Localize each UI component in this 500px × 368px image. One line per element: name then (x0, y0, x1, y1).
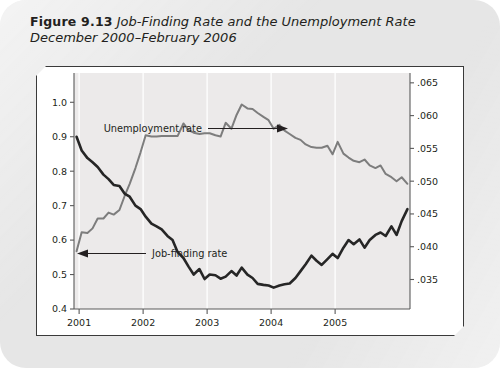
svg-text:.035: .035 (417, 274, 438, 285)
figure-title-line1: Job-Finding Rate and the Unemployment Ra… (117, 14, 416, 29)
svg-text:2005: 2005 (323, 317, 347, 328)
svg-text:.045: .045 (417, 208, 438, 219)
svg-text:0.5: 0.5 (52, 269, 67, 280)
svg-text:.040: .040 (417, 241, 438, 252)
svg-text:1.0: 1.0 (52, 97, 67, 108)
annotation-job-finding-rate: Job-finding rate (151, 248, 227, 259)
svg-text:0.6: 0.6 (52, 234, 67, 245)
figure-card: Figure 9.13 Job-Finding Rate and the Une… (0, 0, 500, 368)
svg-text:2004: 2004 (259, 317, 283, 328)
chart: 0.40.50.60.70.80.91.0.035.040.045.050.05… (36, 66, 464, 336)
svg-text:2001: 2001 (67, 317, 91, 328)
svg-text:0.4: 0.4 (52, 303, 67, 314)
svg-text:0.9: 0.9 (52, 131, 67, 142)
figure-caption: Figure 9.13 Job-Finding Rate and the Une… (30, 14, 470, 46)
svg-text:.065: .065 (417, 77, 438, 88)
svg-text:0.7: 0.7 (52, 200, 67, 211)
svg-text:2002: 2002 (131, 317, 155, 328)
svg-text:.055: .055 (417, 143, 438, 154)
figure-number: Figure 9.13 (30, 14, 113, 29)
svg-text:.060: .060 (417, 110, 438, 121)
svg-text:.050: .050 (417, 176, 438, 187)
annotation-unemployment-rate: Unemployment rate (104, 123, 202, 134)
figure-title-line2: December 2000–February 2006 (30, 30, 237, 45)
svg-text:2003: 2003 (195, 317, 219, 328)
svg-text:0.8: 0.8 (52, 166, 67, 177)
